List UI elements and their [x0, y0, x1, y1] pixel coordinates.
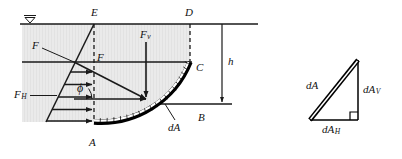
- label-triangle-horizontal-main: dA: [322, 123, 334, 135]
- right-angle-marker: [350, 112, 358, 120]
- water-body-shading: [22, 24, 190, 122]
- label-point-E: E: [91, 7, 98, 18]
- label-force-vertical: Fv: [140, 29, 150, 41]
- label-point-A: A: [89, 137, 96, 148]
- label-angle-phi: ϕ: [77, 82, 83, 94]
- label-force-horizontal-sub: H: [21, 92, 27, 101]
- label-triangle-vertical-main: dA: [363, 83, 375, 95]
- label-force-vertical-sub: v: [147, 32, 151, 41]
- label-triangle-horizontal-sub: H: [334, 127, 340, 136]
- hydrostatic-curved-surface-figure: E D C B A F F Fv FH ϕ h dA dA dAV dAH: [0, 0, 402, 159]
- label-point-C: C: [196, 62, 203, 73]
- label-force-resultant: F: [32, 40, 39, 51]
- label-triangle-hypotenuse: dA: [306, 80, 318, 91]
- label-force-horizontal-main: F: [14, 88, 21, 100]
- figure-canvas: [0, 0, 402, 159]
- label-triangle-vertical-sub: V: [375, 87, 380, 96]
- label-force-vertical-main: F: [140, 28, 147, 40]
- label-depth-h: h: [228, 56, 234, 67]
- label-point-D: D: [185, 7, 193, 18]
- label-force-horizontal: FH: [14, 89, 27, 101]
- label-triangle-horizontal: dAH: [322, 124, 340, 136]
- label-point-F: F: [97, 52, 104, 63]
- water-surface-level-symbol: [24, 16, 36, 24]
- label-area-element: dA: [168, 122, 180, 133]
- label-triangle-vertical: dAV: [363, 84, 380, 96]
- area-element-leader: [165, 104, 175, 120]
- label-point-B: B: [198, 112, 205, 123]
